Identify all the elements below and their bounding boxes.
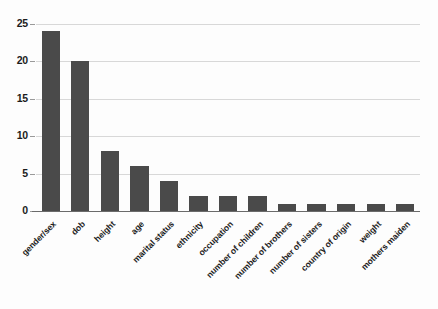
bar: [130, 166, 148, 211]
bar: [278, 204, 296, 211]
y-axis-tick-label: 25: [0, 17, 28, 29]
bar: [42, 31, 60, 211]
x-axis-labels: gender/sexdobheightagemarital statusethn…: [0, 213, 438, 309]
bar: [248, 196, 266, 211]
y-axis-tick-label: 20: [0, 54, 28, 66]
bar: [160, 181, 178, 211]
bar: [219, 196, 237, 211]
y-axis-tick-mark: [30, 136, 35, 137]
y-axis-tick-mark: [30, 61, 35, 62]
bar: [396, 204, 414, 211]
bar-chart: 0510152025 gender/sexdobheightagemarital…: [0, 0, 438, 309]
bars-group: [36, 24, 420, 211]
bar: [101, 151, 119, 211]
y-axis-tick-label: 10: [0, 129, 28, 141]
y-axis-tick-mark: [30, 174, 35, 175]
y-axis-tick-mark: [30, 99, 35, 100]
bar: [189, 196, 207, 211]
bar: [367, 204, 385, 211]
bar: [71, 61, 89, 211]
bar: [337, 204, 355, 211]
y-axis-tick-mark: [30, 24, 35, 25]
y-axis-tick-label: 15: [0, 92, 28, 104]
bar: [307, 204, 325, 211]
y-axis-tick-label: 5: [0, 167, 28, 179]
